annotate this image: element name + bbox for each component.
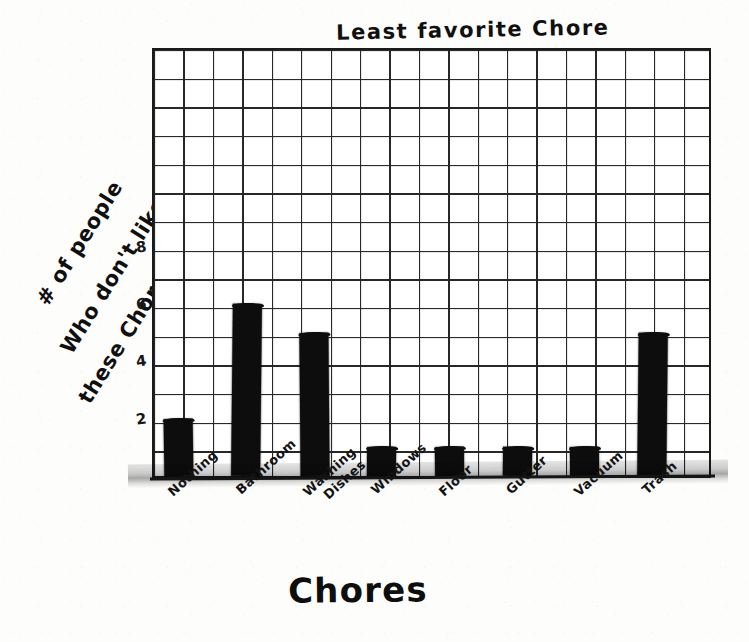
x-label-line: Bathroom bbox=[233, 436, 299, 497]
x-label-gutter: Gutter bbox=[503, 453, 550, 498]
x-label-line: Vacuum bbox=[571, 448, 626, 499]
x-label-line: Gutter bbox=[503, 453, 550, 498]
x-label-line: Nothing bbox=[165, 447, 220, 499]
x-label-line: Windows bbox=[368, 440, 429, 497]
x-label-line: Trash bbox=[639, 458, 680, 497]
x-label-floor: Floor bbox=[436, 461, 475, 499]
x-label-washing-dishes: WashingDishes bbox=[300, 444, 369, 511]
x-label-bathroom: Bathroom bbox=[233, 436, 299, 497]
x-label-vacuum: Vacuum bbox=[571, 448, 626, 499]
x-label-windows: Windows bbox=[368, 440, 429, 497]
x-axis-tick-labels: NothingBathroomWashingDishesWindowsFloor… bbox=[0, 0, 749, 642]
x-label-trash: Trash bbox=[639, 458, 680, 497]
x-axis-title: Chores bbox=[288, 569, 428, 610]
x-label-line: Floor bbox=[436, 461, 475, 499]
chart-page: Least favorite Chore # of people Who don… bbox=[0, 0, 749, 642]
x-label-nothing: Nothing bbox=[165, 447, 220, 499]
